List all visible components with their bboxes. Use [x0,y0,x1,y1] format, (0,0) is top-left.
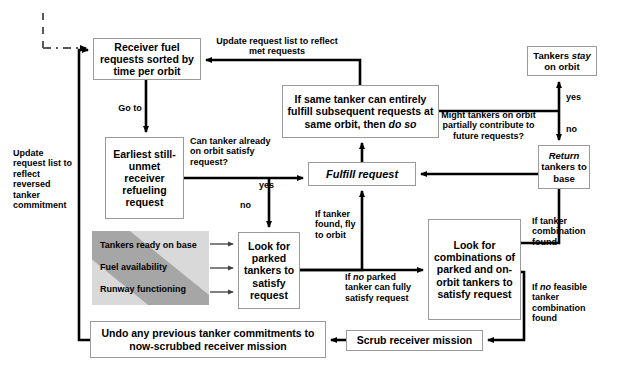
node-scrub-mission[interactable]: Scrub receiver mission [346,330,483,351]
panel-item-tankers-ready: Tankers ready on base [100,241,209,251]
node-fulfill-request[interactable]: Fulfill request [308,162,416,186]
edge-label-yes-orbit: yes [259,180,281,190]
base-readiness-arrows [210,244,233,292]
edge-label-no-partial-text: no [566,124,577,134]
edge-label-if-no-feasible-emphasis: no [540,282,551,292]
node-tankers-stay[interactable]: Tankers stay on orbit [527,46,597,76]
edge-label-go-to-text: Go to [118,103,142,113]
panel-item-fuel-availability: Fuel availability [100,263,209,273]
edge-label-if-tanker-found-text: If tanker found, fly to orbit [315,209,356,240]
edge-label-if-no-feasible: If no feasible tanker combination found [532,282,594,324]
edge-label-if-tanker-combo-found: If tanker combination found [532,216,592,247]
edge-label-update-met-requests-text: Update request list to reflect met reque… [216,36,338,56]
edge-label-might-partially-text: Might tankers on orbit partially contrib… [441,110,536,141]
node-look-combinations-label: Look for combinations of parked and on-o… [429,239,520,300]
edge-label-if-no-feasible-text: If no feasible tanker combination found [532,282,587,323]
node-scrub-mission-label: Scrub receiver mission [347,334,482,346]
edge-label-can-tanker-orbit-text: Can tanker already on orbit satisfy requ… [190,136,271,167]
panel-item-list: Tankers ready on base Fuel availability … [92,231,209,305]
edge-label-if-no-parked-emphasis: no [353,272,364,282]
flowchart-canvas: Receiver fuel requests sorted by time pe… [0,0,620,383]
edge-label-if-no-parked-text: If no parked tanker can fully satisfy re… [345,272,411,303]
node-return-tankers[interactable]: Return tankers to base [538,145,590,189]
node-look-combinations[interactable]: Look for combinations of parked and on-o… [428,219,521,320]
edge-label-if-no-parked: If no parked tanker can fully satisfy re… [345,272,415,303]
node-earliest-request[interactable]: Earliest still-unmet receiver refueling … [105,137,184,219]
node-same-tanker[interactable]: If same tanker can entirely fulfill subs… [282,85,439,138]
panel-item-runway-functioning: Runway functioning [100,285,209,295]
edge-update-met-requests [206,60,360,85]
edge-label-no-orbit-text: no [240,200,251,210]
edge-label-might-partially: Might tankers on orbit partially contrib… [439,110,538,141]
node-look-parked-label: Look for parked tankers to satisfy reque… [239,240,299,301]
node-same-tanker-emphasis: do so [389,118,417,130]
node-fulfill-request-label: Fulfill request [309,168,415,181]
base-readiness-panel: Tankers ready on base Fuel availability … [92,231,209,305]
edge-label-if-tanker-found: If tanker found, fly to orbit [315,209,361,240]
edge-label-update-reversed: Update request list to reflect reversed … [13,148,77,211]
edge-undo-to-receiver [79,50,90,340]
node-receiver-requests[interactable]: Receiver fuel requests sorted by time pe… [93,38,201,80]
edge-label-yes-partial-text: yes [566,92,581,102]
edge-label-update-reversed-text: Update request list to reflect reversed … [13,148,72,210]
node-look-parked[interactable]: Look for parked tankers to satisfy reque… [238,232,300,309]
node-undo-commitments-label: Undo any previous tanker commitments to … [91,327,325,351]
node-tankers-stay-emphasis: stay [572,50,591,61]
node-return-tankers-label: Return tankers to base [539,150,589,183]
node-undo-commitments[interactable]: Undo any previous tanker commitments to … [90,321,326,358]
edge-label-yes-partial: yes [566,92,588,102]
edge-label-update-met-requests: Update request list to reflect met reque… [213,36,341,57]
node-receiver-requests-label: Receiver fuel requests sorted by time pe… [94,41,200,78]
node-tankers-stay-label: Tankers stay on orbit [528,50,596,72]
edge-label-yes-orbit-text: yes [259,180,274,190]
node-earliest-request-label: Earliest still-unmet receiver refueling … [106,148,183,209]
edge-label-no-orbit: no [240,200,260,210]
entry-dashdot-arrow [43,13,86,48]
node-same-tanker-label: If same tanker can entirely fulfill subs… [283,93,438,130]
node-return-tankers-emphasis: Return [549,150,580,161]
edge-label-go-to: Go to [110,103,150,113]
edge-label-if-tanker-combo-found-text: If tanker combination found [532,216,586,247]
edge-label-can-tanker-orbit: Can tanker already on orbit satisfy requ… [190,136,272,167]
edge-label-no-partial: no [566,124,586,134]
